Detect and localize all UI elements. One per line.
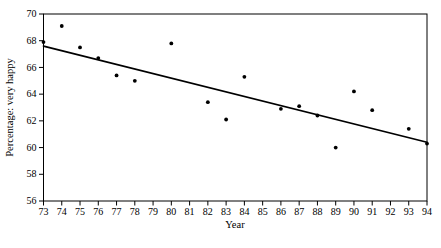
data-point bbox=[297, 104, 301, 108]
scatter-plot-canvas: 5658606264666870737475767778798081828384… bbox=[0, 0, 441, 248]
data-point bbox=[352, 90, 356, 94]
data-point bbox=[78, 45, 82, 49]
x-tick-label: 86 bbox=[276, 206, 286, 217]
plot-generated-layer: 5658606264666870737475767778798081828384… bbox=[27, 8, 433, 216]
x-tick-label: 82 bbox=[203, 206, 213, 217]
data-point bbox=[242, 75, 246, 79]
y-tick-label: 70 bbox=[27, 8, 37, 19]
y-tick-label: 58 bbox=[27, 168, 37, 179]
data-point bbox=[224, 118, 228, 122]
data-point bbox=[425, 142, 429, 146]
data-point bbox=[316, 114, 320, 118]
x-tick-label: 74 bbox=[57, 206, 67, 217]
x-tick-label: 81 bbox=[185, 206, 195, 217]
data-point bbox=[334, 146, 338, 150]
y-tick-label: 62 bbox=[27, 115, 37, 126]
x-tick-label: 93 bbox=[404, 206, 414, 217]
x-tick-label: 90 bbox=[349, 206, 359, 217]
x-tick-label: 80 bbox=[166, 206, 176, 217]
x-tick-label: 83 bbox=[221, 206, 231, 217]
x-axis-title: Year bbox=[225, 219, 245, 230]
data-point bbox=[169, 41, 173, 45]
y-axis-title: Percentage: very happy bbox=[4, 57, 15, 156]
y-tick-label: 68 bbox=[27, 35, 37, 46]
x-tick-label: 88 bbox=[312, 206, 322, 217]
data-point bbox=[370, 108, 374, 112]
data-point bbox=[133, 79, 137, 83]
x-tick-label: 89 bbox=[331, 206, 341, 217]
data-point bbox=[279, 107, 283, 111]
x-tick-label: 85 bbox=[258, 206, 268, 217]
data-point bbox=[96, 56, 100, 60]
data-point bbox=[60, 24, 64, 28]
x-tick-label: 84 bbox=[239, 206, 249, 217]
x-tick-label: 92 bbox=[385, 206, 395, 217]
y-tick-label: 66 bbox=[27, 62, 37, 73]
y-tick-label: 60 bbox=[27, 142, 37, 153]
x-tick-label: 91 bbox=[367, 206, 377, 217]
x-tick-label: 87 bbox=[294, 206, 304, 217]
x-tick-label: 94 bbox=[422, 206, 432, 217]
scatterplot-figure: 5658606264666870737475767778798081828384… bbox=[0, 0, 441, 248]
x-tick-label: 75 bbox=[75, 206, 85, 217]
y-tick-label: 64 bbox=[27, 88, 37, 99]
x-tick-label: 76 bbox=[93, 206, 103, 217]
data-point bbox=[115, 74, 119, 78]
x-tick-label: 79 bbox=[148, 206, 158, 217]
y-tick-label: 56 bbox=[27, 195, 37, 206]
data-point bbox=[42, 40, 46, 44]
data-point bbox=[206, 100, 210, 104]
trend-line bbox=[44, 46, 428, 142]
plot-frame bbox=[44, 14, 428, 201]
x-tick-label: 77 bbox=[112, 206, 122, 217]
x-tick-label: 73 bbox=[39, 206, 49, 217]
data-point bbox=[407, 127, 411, 131]
x-tick-label: 78 bbox=[130, 206, 140, 217]
